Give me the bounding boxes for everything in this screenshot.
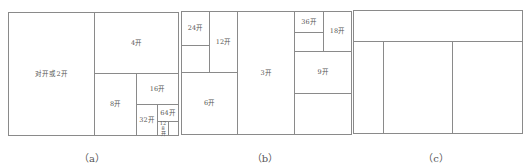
label-24: 24开 — [188, 25, 203, 32]
label-12: 12开 — [216, 39, 231, 46]
cell-18: 18开 — [323, 11, 352, 52]
label-36: 36开 — [301, 19, 316, 26]
panel-c — [353, 10, 523, 134]
caption-c: （c） — [416, 150, 456, 165]
label-octavo: 8开 — [110, 101, 121, 108]
label-6: 6开 — [204, 100, 215, 107]
cell-c-middle — [383, 41, 453, 134]
label-quarto: 4开 — [131, 40, 142, 47]
cell-3: 3开 — [237, 11, 295, 135]
label-32: 32开 — [139, 117, 154, 124]
cell-c-right — [452, 41, 523, 134]
cell-quarto: 4开 — [94, 12, 179, 74]
label-18: 18开 — [330, 28, 345, 35]
caption-a: （a） — [72, 150, 112, 165]
cell-9: 9开 — [294, 51, 352, 94]
panel-a: 对开或2开 4开 8开 16开 32开 64开 128开 — [8, 12, 179, 136]
label-128: 128开 — [159, 121, 167, 136]
label-16: 16开 — [150, 86, 165, 93]
label-9: 9开 — [317, 69, 328, 76]
caption-b: （b） — [245, 150, 285, 165]
cell-72 — [294, 32, 324, 52]
cell-c-top — [353, 10, 523, 42]
label-64: 64开 — [160, 110, 175, 117]
cell-36: 36开 — [294, 11, 324, 33]
label-3: 3开 — [260, 70, 271, 77]
cell-32: 32开 — [136, 104, 158, 136]
cell-256 — [168, 121, 179, 136]
cell-24: 24开 — [181, 11, 210, 46]
cell-octavo: 8开 — [94, 73, 137, 136]
cell-12: 12开 — [209, 11, 238, 73]
label-folio: 对开或2开 — [35, 71, 67, 78]
panel-b: 24开 12开 6开 3开 36开 18开 9开 — [181, 11, 352, 135]
cell-9b — [294, 93, 352, 135]
cell-folio: 对开或2开 — [8, 12, 95, 136]
cell-48 — [181, 45, 210, 73]
cell-6: 6开 — [181, 72, 238, 135]
cell-c-left — [353, 41, 384, 134]
cell-16: 16开 — [136, 73, 179, 105]
